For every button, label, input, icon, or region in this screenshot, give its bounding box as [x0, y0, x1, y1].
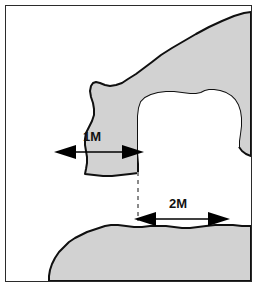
dimension-label-2m: 2M	[169, 196, 187, 211]
dimension-label-1m: 1M	[83, 129, 101, 144]
central-chamber-void	[138, 90, 241, 221]
dimension-arrow-1m-head-left	[54, 145, 76, 159]
figure-border-frame: 1M 2M	[5, 5, 252, 282]
figure-root: 1M 2M	[0, 0, 257, 287]
cave-plan-drawing: 1M 2M	[6, 6, 251, 281]
lower-rock-mass-shape	[49, 225, 251, 281]
